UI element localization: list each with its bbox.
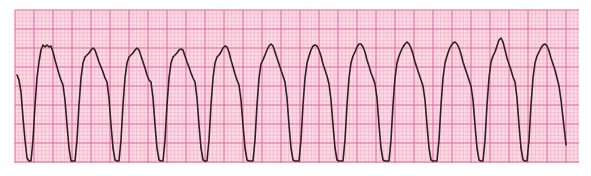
ecg-strip [0,0,591,176]
